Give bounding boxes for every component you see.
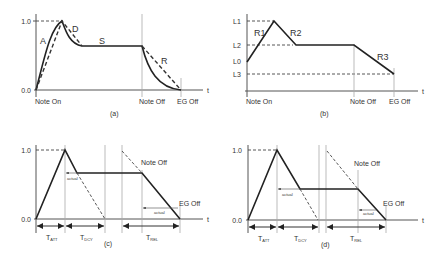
level-l0: L0: [233, 58, 241, 65]
note-off-label: Note Off: [139, 98, 165, 105]
y-tick-0: 0.0: [21, 87, 31, 94]
y-tick-1: 1.0: [21, 18, 31, 25]
t-att-label: TATT: [258, 235, 270, 243]
level-l3: L3: [233, 71, 241, 78]
y-tick-1: 1.0: [232, 147, 242, 154]
note-off-label: Note Off: [350, 98, 376, 105]
note-on-label: Note On: [35, 98, 61, 105]
t-att-label: TATT: [46, 234, 58, 242]
x-axis-label: t: [422, 88, 424, 95]
envelope-curve: [247, 21, 394, 74]
rate-label-r1: R1: [254, 28, 266, 38]
segment-label-d: D: [72, 24, 79, 34]
y-tick-0: 0.0: [21, 216, 31, 223]
t-rel-label: TREL: [146, 234, 159, 242]
level-l2: L2: [233, 42, 241, 49]
segment-label-a: A: [40, 36, 46, 46]
eg-off-label: EG Off: [383, 200, 404, 207]
eg-off-label: EG Off: [389, 98, 410, 105]
level-l1: L1: [233, 18, 241, 25]
actual-release-label: actual: [154, 210, 165, 215]
caption-b: (b): [320, 110, 329, 118]
y-tick-0: 0.0: [232, 217, 242, 224]
t-dcy-label: TDCY: [294, 235, 307, 243]
rate-label-r2: R2: [290, 28, 302, 38]
envelope-curve: [36, 21, 181, 90]
eg-off-label: EG Off: [177, 98, 198, 105]
y-tick-1: 1.0: [21, 147, 31, 154]
actual-release-label: actual: [363, 211, 374, 216]
panel-d: actual actual TATT TDCY TREL 1.0 0.0 Not…: [232, 145, 424, 249]
x-axis-label: t: [207, 216, 209, 223]
x-axis-label: t: [207, 87, 209, 94]
t-rel-label: TREL: [350, 235, 363, 243]
rate-label-r3: R3: [377, 52, 389, 62]
t-dcy-label: TDCY: [80, 234, 93, 242]
actual-decay-label: actual: [67, 176, 78, 181]
note-off-label: Note Off: [354, 160, 380, 167]
panel-a: 1.0 0.0 A D S R t Note On Note Off EG Of…: [21, 14, 209, 118]
x-axis-label: t: [422, 217, 424, 224]
segment-label-s: S: [99, 36, 105, 46]
caption-c: (c): [104, 240, 112, 248]
eg-off-label: EG Off: [179, 200, 200, 207]
envelope-figure: 1.0 0.0 A D S R t Note On Note Off EG Of…: [0, 0, 436, 257]
panel-b: L1 L2 L0 L3 R1 R2 R3 t Note On Note Off …: [233, 14, 424, 118]
note-on-label: Note On: [246, 98, 272, 105]
note-off-label: Note Off: [141, 159, 167, 166]
caption-a: (a): [110, 110, 119, 118]
segment-label-r: R: [161, 56, 168, 66]
actual-decay-label: actual: [282, 192, 293, 197]
caption-d: (d): [321, 241, 330, 249]
panel-c: actual actual TATT TDCY TREL 1.0 0.0 Not…: [21, 145, 209, 248]
